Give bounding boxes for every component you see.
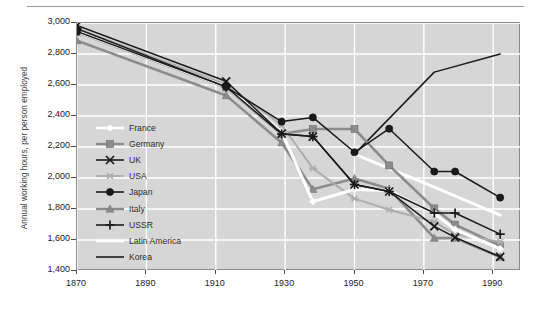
legend-swatch [95,234,125,248]
x-tick-mark [215,270,216,274]
x-tick-label: 1970 [393,278,453,288]
y-tick-mark [71,239,76,240]
y-tick-label: 1,800 [8,202,70,212]
legend-swatch [95,121,125,135]
y-tick-mark [71,115,76,116]
x-tick-mark [423,270,424,274]
legend-item-latin-america[interactable]: Latin America [95,233,215,249]
legend-label: USSR [129,220,153,230]
data-point-circle [497,194,504,201]
data-point-circle [223,83,230,90]
legend-swatch [95,169,125,183]
legend-item-ussr[interactable]: USSR [95,217,215,233]
legend-swatch [95,185,125,199]
legend-label: Japan [129,187,152,197]
data-point-triangle [77,37,81,44]
data-point-circle [309,114,316,121]
data-point-circle [386,125,393,132]
x-tick-label: 1910 [185,278,245,288]
legend-item-germany[interactable]: Germany [95,136,215,152]
legend-swatch [95,202,125,216]
data-point-asterisk [106,173,114,179]
data-point-diamond [106,124,114,132]
y-tick-mark [71,177,76,178]
data-point-circle [351,149,358,156]
legend-swatch [95,137,125,151]
y-tick-mark [71,84,76,85]
x-tick-mark [354,270,355,274]
y-tick-label: 2,000 [8,171,70,181]
y-tick-mark [71,53,76,54]
y-tick-mark [71,22,76,23]
y-tick-mark [71,146,76,147]
data-point-plus [105,220,114,229]
x-tick-mark [492,270,493,274]
y-tick-mark [71,208,76,209]
data-point-asterisk [309,165,317,171]
data-point-circle [106,189,113,196]
x-tick-label: 1890 [115,278,175,288]
legend-item-usa[interactable]: USA [95,168,215,184]
legend-label: Korea [129,252,152,262]
x-tick-mark [76,270,77,274]
data-point-square [351,126,358,133]
chart-legend: FranceGermanyUKUSAJapanItalyUSSRLatin Am… [95,120,215,265]
y-tick-label: 2,600 [8,78,70,88]
x-tick-mark [284,270,285,274]
legend-item-uk[interactable]: UK [95,152,215,168]
y-tick-label: 1,400 [8,264,70,274]
x-tick-label: 1950 [324,278,384,288]
series-line [355,54,501,154]
legend-item-korea[interactable]: Korea [95,249,215,265]
legend-item-japan[interactable]: Japan [95,184,215,200]
data-point-plus [450,208,459,217]
data-point-circle [451,168,458,175]
legend-swatch [95,153,125,167]
y-tick-label: 2,200 [8,140,70,150]
series-korea [355,54,501,154]
data-point-square [386,162,393,169]
y-tick-label: 1,600 [8,233,70,243]
y-tick-label: 2,400 [8,109,70,119]
legend-item-france[interactable]: France [95,120,215,136]
x-tick-label: 1930 [254,278,314,288]
data-point-x [430,222,438,230]
data-point-square [107,141,114,148]
y-tick-label: 2,800 [8,47,70,57]
data-point-circle [431,168,438,175]
y-tick-label: 3,000 [8,16,70,26]
legend-item-italy[interactable]: Italy [95,200,215,216]
legend-label: Germany [129,139,164,149]
x-tick-label: 1990 [462,278,522,288]
x-tick-mark [145,270,146,274]
chart-figure: Annual working hours, per person employe… [0,0,535,319]
x-tick-label: 1870 [46,278,106,288]
legend-label: UK [129,155,141,165]
legend-swatch [95,218,125,232]
data-point-circle [278,118,285,125]
data-point-square [309,126,316,133]
data-point-plus [496,230,505,239]
legend-label: Latin America [129,236,181,246]
legend-swatch [95,250,125,264]
legend-label: Italy [129,204,145,214]
legend-label: USA [129,171,147,181]
top-divider-rule [27,6,524,7]
legend-label: France [129,123,156,133]
data-point-asterisk [385,207,393,213]
